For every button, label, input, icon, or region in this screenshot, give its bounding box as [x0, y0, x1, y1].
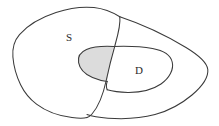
- set-s-label: S: [66, 31, 72, 43]
- inner-oval-d-outline-lower-left: [106, 81, 107, 89]
- set-d-label: D: [135, 64, 143, 76]
- venn-diagram-svg: S D: [0, 0, 219, 126]
- venn-diagram-container: S D: [0, 0, 219, 126]
